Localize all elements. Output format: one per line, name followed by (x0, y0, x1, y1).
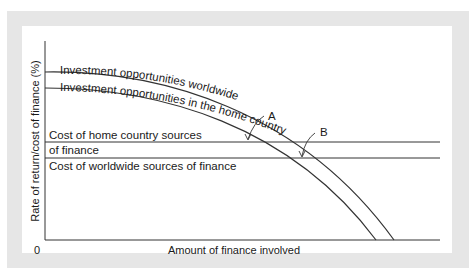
x-axis-label: Amount of finance involved (168, 244, 300, 256)
home-cost-label-line1: Cost of home country sources (49, 129, 202, 141)
origin-label: 0 (34, 244, 40, 256)
diagram: Investment opportunities worldwide Inves… (0, 0, 476, 278)
annotation-b-label: B (320, 126, 328, 138)
annotation-a-arrowhead (245, 134, 251, 140)
home-cost-label-line2: of finance (49, 144, 99, 156)
annotation-a-label: A (268, 110, 276, 122)
worldwide-cost-label: Cost of worldwide sources of finance (49, 160, 236, 172)
y-axis-label: Rate of return/cost of finance (%) (29, 60, 41, 221)
